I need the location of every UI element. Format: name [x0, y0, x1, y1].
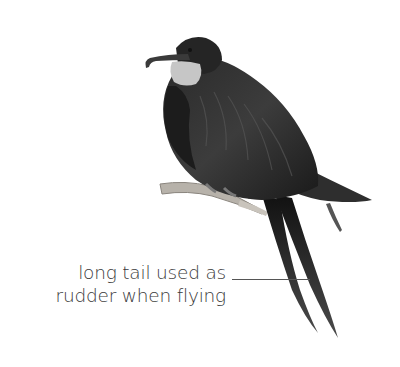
throat-pouch: [170, 61, 201, 85]
annotation-leader-line: [232, 279, 310, 280]
frigatebird-illustration: [0, 0, 400, 367]
annotation-line-2: rudder when flying: [20, 284, 226, 307]
annotated-bird-figure: long tail used as rudder when flying: [0, 0, 400, 367]
tail-annotation-label: long tail used as rudder when flying: [20, 261, 226, 307]
annotation-line-1: long tail used as: [20, 261, 226, 284]
tail-streamers: [262, 195, 342, 338]
bird-eye: [188, 48, 192, 52]
